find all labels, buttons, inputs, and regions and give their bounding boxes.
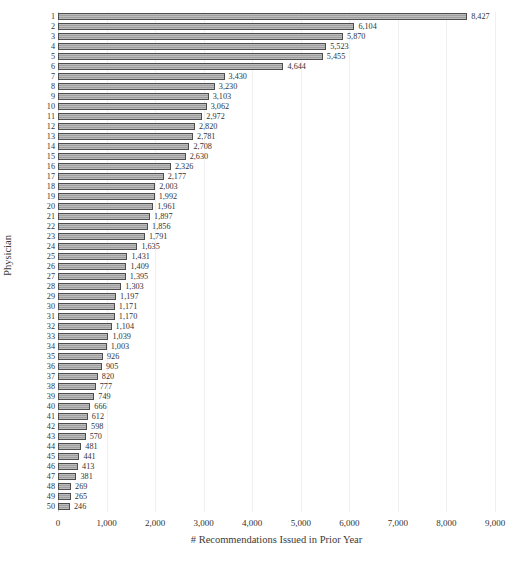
bar[interactable] bbox=[58, 413, 88, 420]
bar-row[interactable]: 50246 bbox=[58, 502, 495, 512]
bar[interactable] bbox=[58, 133, 193, 140]
bar-row[interactable]: 321,104 bbox=[58, 322, 495, 332]
bar-row[interactable]: 201,961 bbox=[58, 202, 495, 212]
bar[interactable] bbox=[58, 393, 94, 400]
bar-row[interactable]: 191,992 bbox=[58, 192, 495, 202]
bar[interactable] bbox=[58, 303, 115, 310]
bar-row[interactable]: 241,635 bbox=[58, 242, 495, 252]
bar-row[interactable]: 172,177 bbox=[58, 172, 495, 182]
bar-row[interactable]: 311,170 bbox=[58, 312, 495, 322]
bar-row[interactable]: 291,197 bbox=[58, 292, 495, 302]
bar-row[interactable]: 112,972 bbox=[58, 112, 495, 122]
bar[interactable] bbox=[58, 293, 116, 300]
bar[interactable] bbox=[58, 163, 171, 170]
bar-row[interactable]: 221,856 bbox=[58, 222, 495, 232]
bar[interactable] bbox=[58, 473, 76, 480]
bar[interactable] bbox=[58, 283, 121, 290]
bar[interactable] bbox=[58, 353, 103, 360]
bar-row[interactable]: 42598 bbox=[58, 422, 495, 432]
bar-row[interactable]: 35926 bbox=[58, 352, 495, 362]
bar[interactable] bbox=[58, 373, 98, 380]
bar[interactable] bbox=[58, 433, 86, 440]
bar[interactable] bbox=[58, 343, 107, 350]
bar[interactable] bbox=[58, 493, 71, 500]
bar-row[interactable]: 37820 bbox=[58, 372, 495, 382]
bar-row[interactable]: 281,303 bbox=[58, 282, 495, 292]
bar[interactable] bbox=[58, 443, 81, 450]
bar[interactable] bbox=[58, 323, 112, 330]
bar[interactable] bbox=[58, 103, 207, 110]
bar[interactable] bbox=[58, 203, 153, 210]
bar[interactable] bbox=[58, 313, 115, 320]
bar-row[interactable]: 55,455 bbox=[58, 52, 495, 62]
bar-row[interactable]: 47381 bbox=[58, 472, 495, 482]
bar-row[interactable]: 122,820 bbox=[58, 122, 495, 132]
bar[interactable] bbox=[58, 43, 326, 50]
bar-row[interactable]: 341,003 bbox=[58, 342, 495, 352]
bar[interactable] bbox=[58, 93, 209, 100]
bar-row[interactable]: 83,230 bbox=[58, 82, 495, 92]
bar-row[interactable]: 45441 bbox=[58, 452, 495, 462]
bar-row[interactable]: 103,062 bbox=[58, 102, 495, 112]
bar-row[interactable]: 26,104 bbox=[58, 22, 495, 32]
bar-row[interactable]: 142,708 bbox=[58, 142, 495, 152]
bar-row[interactable]: 73,430 bbox=[58, 72, 495, 82]
bar-row[interactable]: 45,523 bbox=[58, 42, 495, 52]
bar[interactable] bbox=[58, 503, 70, 510]
bar-row[interactable]: 40666 bbox=[58, 402, 495, 412]
bar[interactable] bbox=[58, 263, 126, 270]
bar[interactable] bbox=[58, 233, 145, 240]
bar[interactable] bbox=[58, 463, 78, 470]
bar[interactable] bbox=[58, 73, 225, 80]
bar[interactable] bbox=[58, 423, 87, 430]
bar[interactable] bbox=[58, 53, 323, 60]
bar[interactable] bbox=[58, 213, 150, 220]
bar-row[interactable]: 38777 bbox=[58, 382, 495, 392]
bar[interactable] bbox=[58, 63, 283, 70]
bar-row[interactable]: 36905 bbox=[58, 362, 495, 372]
bar[interactable] bbox=[58, 273, 126, 280]
bar-row[interactable]: 44481 bbox=[58, 442, 495, 452]
bar[interactable] bbox=[58, 153, 186, 160]
bar-row[interactable]: 46413 bbox=[58, 462, 495, 472]
bar-row[interactable]: 93,103 bbox=[58, 92, 495, 102]
bar-row[interactable]: 18,427 bbox=[58, 12, 495, 22]
bar[interactable] bbox=[58, 183, 155, 190]
bar-row[interactable]: 261,409 bbox=[58, 262, 495, 272]
bar[interactable] bbox=[58, 113, 202, 120]
bar-row[interactable]: 331,039 bbox=[58, 332, 495, 342]
bar-row[interactable]: 182,003 bbox=[58, 182, 495, 192]
bar-row[interactable]: 64,644 bbox=[58, 62, 495, 72]
bar-row[interactable]: 49265 bbox=[58, 492, 495, 502]
bar-row[interactable]: 35,870 bbox=[58, 32, 495, 42]
bar-row[interactable]: 211,897 bbox=[58, 212, 495, 222]
bar[interactable] bbox=[58, 193, 155, 200]
bar[interactable] bbox=[58, 483, 71, 490]
bar[interactable] bbox=[58, 403, 90, 410]
bar-row[interactable]: 43570 bbox=[58, 432, 495, 442]
bar[interactable] bbox=[58, 253, 127, 260]
bar[interactable] bbox=[58, 223, 148, 230]
bar-row[interactable]: 39749 bbox=[58, 392, 495, 402]
bar-row[interactable]: 162,326 bbox=[58, 162, 495, 172]
bar[interactable] bbox=[58, 143, 189, 150]
bar[interactable] bbox=[58, 453, 79, 460]
bar[interactable] bbox=[58, 123, 195, 130]
bar[interactable] bbox=[58, 173, 164, 180]
bar[interactable] bbox=[58, 13, 467, 20]
bar-row[interactable]: 271,395 bbox=[58, 272, 495, 282]
bar[interactable] bbox=[58, 363, 102, 370]
bar-row[interactable]: 132,781 bbox=[58, 132, 495, 142]
bar[interactable] bbox=[58, 383, 96, 390]
bar-row[interactable]: 301,171 bbox=[58, 302, 495, 312]
bar[interactable] bbox=[58, 23, 354, 30]
bar[interactable] bbox=[58, 33, 343, 40]
bar-row[interactable]: 251,431 bbox=[58, 252, 495, 262]
bar[interactable] bbox=[58, 243, 137, 250]
bar-row[interactable]: 41612 bbox=[58, 412, 495, 422]
bar-row[interactable]: 152,630 bbox=[58, 152, 495, 162]
bar[interactable] bbox=[58, 333, 108, 340]
bar-row[interactable]: 231,791 bbox=[58, 232, 495, 242]
bar-row[interactable]: 48269 bbox=[58, 482, 495, 492]
bar[interactable] bbox=[58, 83, 215, 90]
